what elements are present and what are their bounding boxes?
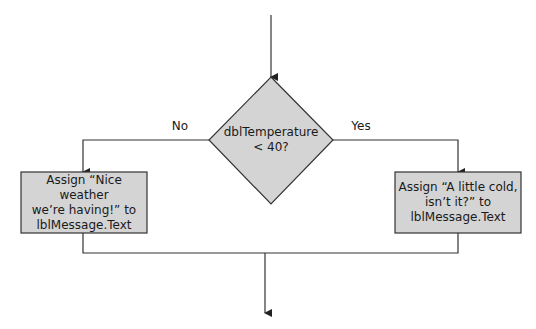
decision-line-1: dblTemperature xyxy=(224,125,319,140)
right-box-line-1: Assign “A little cold, xyxy=(398,180,517,195)
right-box-line-3: lblMessage.Text xyxy=(411,210,506,225)
yes-label: Yes xyxy=(346,119,376,134)
left-box-line-3: lblMessage.Text xyxy=(37,218,132,233)
yes-branch-line xyxy=(333,140,458,172)
right-box-line-2: isn’t it?” to xyxy=(425,195,491,210)
decision-line-2: < 40? xyxy=(253,140,289,155)
no-branch-line xyxy=(83,140,209,172)
merge-line xyxy=(83,233,458,253)
left-box-line-2: we’re having!” to xyxy=(32,203,136,218)
decision-text: dblTemperature < 40? xyxy=(209,118,333,162)
right-box-text: Assign “A little cold, isn’t it?” to lbl… xyxy=(395,172,521,233)
flowchart-canvas xyxy=(0,0,536,329)
no-label: No xyxy=(168,119,192,134)
left-box-text: Assign “Nice weather we’re having!” to l… xyxy=(21,172,147,233)
left-box-line-1: Assign “Nice weather xyxy=(21,173,147,203)
